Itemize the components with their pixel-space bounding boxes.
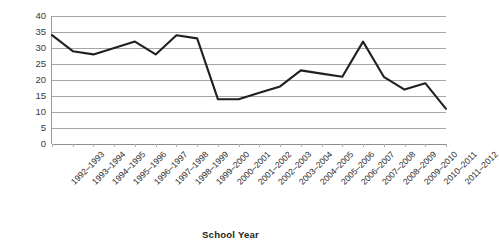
x-axis-title: School Year (0, 229, 461, 240)
series-polyline (52, 35, 446, 109)
